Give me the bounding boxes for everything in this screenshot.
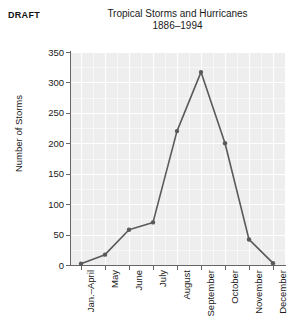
y-axis-tick-label: 150 [26,169,64,178]
y-axis-tick-mark [66,174,71,175]
x-axis-tick-mark [105,266,106,270]
gridline-horizontal-minor [71,189,285,190]
x-axis-tick-label: December [277,270,288,314]
gridline-vertical-minor [117,52,118,265]
x-axis-tick-mark [81,266,82,270]
y-axis-tick-mark [66,235,71,236]
gridline-horizontal-minor [71,67,285,68]
gridline-vertical-minor [93,52,94,265]
gridline-horizontal [71,82,285,83]
gridline-vertical-minor [189,52,190,265]
gridline-horizontal [71,52,285,53]
gridline-vertical-minor [237,52,238,265]
x-axis-line [70,265,286,266]
gridline-vertical [273,52,274,265]
x-axis-tick-label: October [229,270,240,304]
gridline-vertical-minor [141,52,142,265]
y-axis-tick-mark [66,265,71,266]
x-axis-tick-mark [225,266,226,270]
gridline-horizontal [71,143,285,144]
y-axis-tick-mark [66,204,71,205]
y-axis-tick-mark [66,143,71,144]
plot-area [71,52,285,265]
x-axis-tick-label: Jan.–April [85,270,96,312]
gridline-vertical [81,52,82,265]
gridline-vertical [177,52,178,265]
gridline-vertical-minor [213,52,214,265]
gridline-horizontal [71,235,285,236]
x-axis-tick-label: August [181,270,192,300]
x-axis-tick-mark [129,266,130,270]
x-axis-tick-mark [153,266,154,270]
gridline-vertical [225,52,226,265]
gridline-vertical [129,52,130,265]
y-axis-tick-mark [66,82,71,83]
gridline-vertical-minor [261,52,262,265]
gridline-horizontal [71,113,285,114]
gridline-vertical-minor [165,52,166,265]
x-axis-tick-label: September [205,270,216,316]
y-axis-tick-labels: 050100150200250300350 [24,0,64,321]
gridline-horizontal-minor [71,128,285,129]
y-axis-tick-label: 250 [26,108,64,117]
x-axis-tick-mark [201,266,202,270]
gridline-vertical [153,52,154,265]
chart-title-line-1: Tropical Storms and Hurricanes [107,8,247,19]
chart-title: Tropical Storms and Hurricanes 1886–1994 [70,8,285,32]
y-axis-tick-label: 350 [26,48,64,57]
y-axis-tick-label: 200 [26,139,64,148]
y-axis-tick-label: 100 [26,200,64,209]
x-axis-tick-label: July [157,270,168,287]
y-axis-tick-mark [66,113,71,114]
gridline-horizontal-minor [71,250,285,251]
x-axis-tick-mark [177,266,178,270]
gridline-vertical [105,52,106,265]
gridline-vertical [249,52,250,265]
y-axis-tick-label: 300 [26,78,64,87]
gridline-horizontal-minor [71,159,285,160]
x-axis-tick-mark [249,266,250,270]
x-axis-tick-label: November [253,270,264,314]
y-axis-tick-label: 0 [26,261,64,270]
x-axis-tick-mark [273,266,274,270]
gridline-vertical [201,52,202,265]
gridline-horizontal [71,174,285,175]
x-axis-tick-label: June [133,270,144,291]
gridline-horizontal-minor [71,219,285,220]
chart-title-line-2: 1886–1994 [70,20,285,32]
gridline-horizontal [71,204,285,205]
gridline-horizontal-minor [71,98,285,99]
y-axis-tick-mark [66,52,71,53]
y-axis-tick-label: 50 [26,230,64,239]
y-axis-title: Number of Storms [13,79,24,189]
x-axis-tick-label: May [109,270,120,288]
